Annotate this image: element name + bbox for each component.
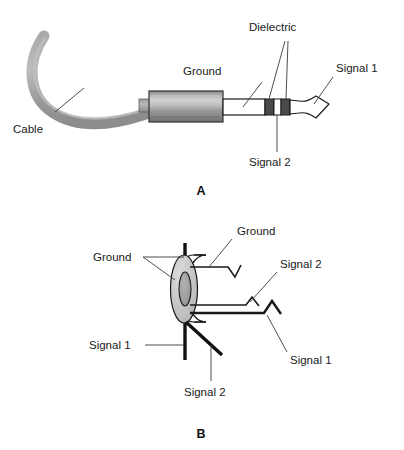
panel-a: Cable Ground Dielectric Signal 1 Signal … (13, 21, 378, 198)
cable-graphic (32, 36, 146, 124)
ring-contact-signal2 (274, 99, 281, 115)
signal2-lug-tab (186, 322, 222, 355)
label-signal2-a: Signal 2 (249, 156, 291, 168)
label-ground-b-left: Ground (93, 251, 131, 263)
ring-inner-hole (179, 272, 191, 306)
ground-lead-wire (190, 265, 241, 277)
figure-root: Cable Ground Dielectric Signal 1 Signal … (0, 0, 404, 450)
leader-signal2-b-top (250, 272, 277, 302)
label-signal2-b-top: Signal 2 (280, 258, 322, 270)
label-ground-b-right: Ground (237, 225, 275, 237)
tip-contact-signal1 (290, 96, 329, 118)
connector-diagram: Cable Ground Dielectric Signal 1 Signal … (0, 0, 404, 450)
label-ground-a: Ground (183, 65, 221, 77)
panel-b: Ground Ground Signal 1 Signal 2 Signal 1… (89, 225, 332, 441)
label-signal1-a: Signal 1 (336, 62, 378, 74)
label-signal1-b-right: Signal 1 (290, 354, 332, 366)
leader-signal1-b-right (267, 315, 287, 352)
leader-dielectric-1 (269, 41, 285, 99)
panel-label-a: A (196, 184, 205, 198)
leader-ground-b-ring (143, 257, 175, 280)
signal2-lead-wire (190, 297, 259, 306)
label-dielectric: Dielectric (249, 21, 297, 33)
dielectric-band-1 (265, 99, 274, 115)
ground-sleeve (223, 99, 265, 115)
label-cable: Cable (13, 123, 43, 135)
signal1-lead-wire (190, 301, 281, 314)
label-signal1-b-left: Signal 1 (89, 339, 131, 351)
leader-ground-b-wire (209, 239, 232, 267)
panel-label-b: B (196, 427, 205, 441)
plug-barrel (149, 91, 223, 122)
label-signal2-b-bottom: Signal 2 (184, 386, 226, 398)
leader-cable (55, 88, 84, 112)
dielectric-band-2 (281, 99, 290, 115)
leader-dielectric-2 (286, 41, 288, 99)
